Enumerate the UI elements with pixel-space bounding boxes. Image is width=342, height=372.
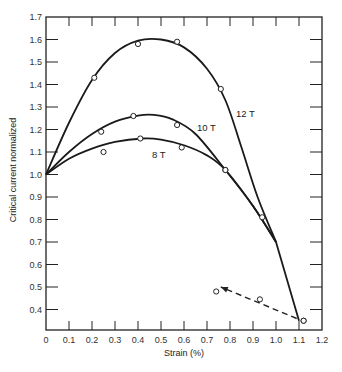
y-tick-label: 1.1 xyxy=(29,147,42,157)
data-point-8-t xyxy=(179,145,184,150)
x-tick-label: 0 xyxy=(43,335,48,345)
data-point-12-t xyxy=(135,41,140,46)
data-point-unloading-dashed- xyxy=(214,289,219,294)
y-tick-label: 1.7 xyxy=(29,12,42,22)
curve-label-12t: 12 T xyxy=(236,108,255,119)
curve-12-t xyxy=(46,39,299,321)
data-point-10-t xyxy=(131,113,136,118)
y-tick-label: 1.5 xyxy=(29,57,42,67)
x-tick-label: 0.8 xyxy=(224,335,237,345)
y-tick-label: 0.9 xyxy=(29,192,42,202)
x-tick-label: 0.6 xyxy=(178,335,191,345)
data-point-12-t xyxy=(175,39,180,44)
x-tick-label: 0.5 xyxy=(155,335,168,345)
plot-frame xyxy=(46,17,322,330)
x-tick-label: 0.7 xyxy=(201,335,214,345)
plot-border xyxy=(46,17,322,330)
x-tick-label: 0.2 xyxy=(86,335,99,345)
curves xyxy=(46,39,299,321)
data-point-12-t xyxy=(260,215,265,220)
y-tick-label: 1.4 xyxy=(29,80,42,90)
x-tick-label: 0.9 xyxy=(247,335,260,345)
y-tick-label: 0.6 xyxy=(29,260,42,270)
x-tick-label: 1.2 xyxy=(316,335,329,345)
data-point-8-t xyxy=(138,136,143,141)
y-tick-label: 1.6 xyxy=(29,35,42,45)
y-tick-label: 0.8 xyxy=(29,215,42,225)
data-point-8-t xyxy=(223,167,228,172)
y-tick-label: 1.3 xyxy=(29,102,42,112)
x-axis-title: Strain (%) xyxy=(164,348,204,358)
data-point-12-t xyxy=(92,75,97,80)
curve-label-8t: 8 T xyxy=(152,149,166,160)
y-tick-label: 1.0 xyxy=(29,170,42,180)
x-tick-label: 0.1 xyxy=(63,335,76,345)
x-tick-label: 0.3 xyxy=(109,335,122,345)
data-point-12-t xyxy=(218,86,223,91)
data-point-10-t xyxy=(99,129,104,134)
x-tick-label: 1.1 xyxy=(293,335,306,345)
data-point-10-t xyxy=(175,122,180,127)
y-tick-label: 1.2 xyxy=(29,125,42,135)
data-point-unloading-dashed- xyxy=(257,297,262,302)
curve-label-10t: 10 T xyxy=(197,122,216,133)
strain-critical-current-chart: 00.10.20.30.40.50.60.70.80.91.01.11.20.4… xyxy=(0,0,342,372)
y-tick-label: 0.4 xyxy=(29,305,42,315)
data-point-unloading-dashed- xyxy=(301,318,306,323)
data-point-8-t xyxy=(101,149,106,154)
y-tick-label: 0.7 xyxy=(29,237,42,247)
dashed-line-unloading-dashed- xyxy=(221,287,297,319)
x-tick-label: 1.0 xyxy=(270,335,283,345)
axis-ticks: 00.10.20.30.40.50.60.70.80.91.01.11.20.4… xyxy=(29,12,328,345)
curve-10-t xyxy=(46,115,276,242)
y-tick-label: 0.5 xyxy=(29,282,42,292)
data-points xyxy=(92,39,307,323)
y-axis-title: Critical current normalized xyxy=(8,118,18,223)
x-tick-label: 0.4 xyxy=(132,335,145,345)
